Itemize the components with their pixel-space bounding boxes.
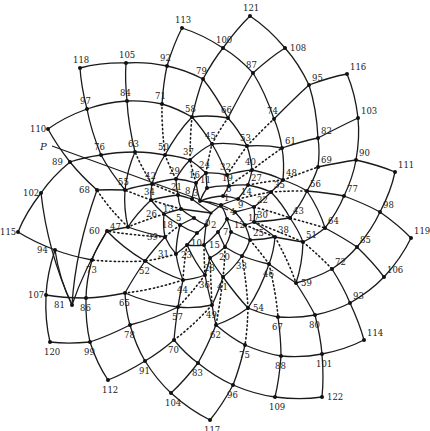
node-label-73: 73 — [86, 265, 97, 275]
node-label-81: 81 — [54, 300, 65, 310]
edge-56-64 — [307, 191, 325, 228]
edge-57-78 — [130, 307, 178, 325]
node-71 — [160, 102, 164, 106]
edge-67-80 — [278, 315, 315, 317]
node-label-55: 55 — [118, 177, 129, 187]
edge-49-57 — [178, 305, 212, 308]
node-label-76: 76 — [94, 142, 105, 152]
node-101 — [320, 352, 324, 356]
node-label-71: 71 — [155, 91, 166, 101]
node-49 — [210, 303, 214, 307]
node-63 — [133, 150, 137, 154]
node-label-16: 16 — [189, 170, 200, 180]
node-117 — [208, 418, 212, 422]
node-label-1: 1 — [224, 193, 229, 203]
node-label-24: 24 — [199, 160, 210, 170]
edge-1-3 — [200, 201, 221, 205]
node-label-88: 88 — [275, 361, 286, 371]
node-label-12: 12 — [234, 220, 245, 230]
node-112 — [106, 378, 110, 382]
node-47 — [126, 225, 130, 229]
node-label-15: 15 — [209, 240, 220, 250]
node-label-34: 34 — [144, 187, 155, 197]
node-45 — [210, 142, 214, 146]
node-label-67: 67 — [272, 322, 283, 332]
edge-43-51 — [290, 218, 303, 242]
edge-40-61 — [252, 148, 282, 170]
node-label-45: 45 — [205, 131, 216, 141]
node-label-107: 107 — [28, 290, 44, 300]
node-3 — [198, 199, 202, 203]
node-label-79: 79 — [196, 66, 207, 76]
node-label-9: 9 — [238, 200, 243, 210]
edge-50-63 — [135, 152, 165, 155]
node-61 — [280, 146, 284, 150]
edge-58-66 — [192, 116, 228, 118]
edge-19-27 — [229, 185, 248, 186]
node-label-22: 22 — [257, 195, 268, 205]
node-label-66: 66 — [221, 105, 232, 115]
node-72 — [330, 267, 334, 271]
node-56 — [305, 189, 309, 193]
node-116 — [345, 72, 349, 76]
node-121 — [248, 14, 252, 18]
node-label-116: 116 — [350, 62, 366, 72]
edge-51-59 — [296, 242, 303, 283]
node-label-61: 61 — [285, 136, 296, 146]
edge-57-65 — [125, 293, 178, 307]
node-label-93: 93 — [353, 291, 364, 301]
edge-95-108 — [285, 48, 309, 85]
edge-73-94 — [55, 250, 92, 260]
node-label-111: 111 — [398, 160, 414, 170]
node-12 — [229, 230, 233, 234]
node-25 — [248, 238, 252, 242]
node-label-87: 87 — [246, 60, 257, 70]
node-label-37: 37 — [183, 147, 194, 157]
node-label-72: 72 — [335, 257, 346, 267]
node-label-109: 109 — [269, 402, 285, 412]
node-label-35: 35 — [274, 180, 285, 190]
node-labels: 0123456789101112131415161718192021222324… — [0, 3, 430, 431]
node-119 — [409, 236, 413, 240]
edge-56-77 — [307, 191, 344, 196]
edge-21-34 — [151, 195, 178, 200]
edge-92-105 — [126, 63, 167, 66]
node-label-36: 36 — [199, 280, 210, 290]
node-43 — [288, 216, 292, 220]
node-41 — [221, 275, 225, 279]
node-39 — [163, 235, 167, 239]
node-label-25: 25 — [253, 228, 264, 238]
node-115 — [16, 230, 20, 234]
node-46 — [267, 262, 271, 266]
node-label-89: 89 — [52, 157, 63, 167]
node-label-11: 11 — [200, 175, 211, 185]
node-label-91: 91 — [139, 366, 150, 376]
edge-2-15 — [204, 225, 206, 245]
edge-48-61 — [282, 148, 284, 180]
edge-72-93 — [332, 269, 350, 303]
node-label-28: 28 — [204, 263, 215, 273]
edge-82-95 — [309, 85, 318, 138]
node-68 — [95, 188, 99, 192]
node-97 — [85, 107, 89, 111]
node-label-60: 60 — [89, 226, 100, 236]
node-label-8: 8 — [185, 186, 190, 196]
edge-3-6 — [200, 196, 223, 201]
node-109 — [273, 395, 277, 399]
edge-71-84 — [127, 101, 162, 104]
node-5 — [192, 216, 196, 220]
node-label-74: 74 — [267, 106, 278, 116]
node-label-101: 101 — [316, 359, 332, 369]
node-21 — [176, 193, 180, 197]
edge-69-82 — [318, 138, 319, 167]
node-90 — [354, 158, 358, 162]
node-108 — [283, 46, 287, 50]
node-label-32: 32 — [220, 162, 231, 172]
node-110 — [46, 127, 50, 131]
node-88 — [279, 354, 283, 358]
node-label-62: 62 — [210, 330, 221, 340]
node-76 — [99, 153, 103, 157]
node-label-65: 65 — [119, 298, 130, 308]
node-78 — [128, 323, 132, 327]
edge-109-122 — [275, 397, 322, 399]
